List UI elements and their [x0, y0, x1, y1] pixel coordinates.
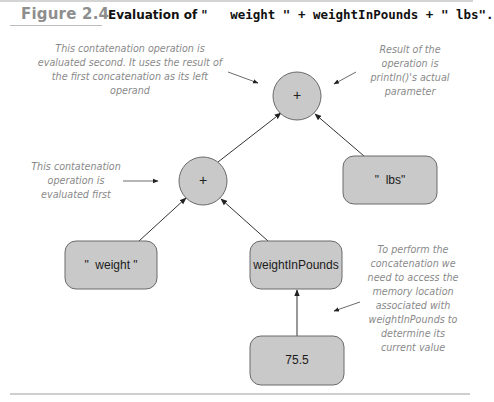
annotation-line: need to access the	[357, 271, 469, 285]
value-label: 75.5	[250, 353, 344, 367]
edge-inner-to-top	[218, 113, 281, 162]
annotation-line: concatenation we	[357, 257, 469, 271]
annotation-second-concat: This contatenation operation is evaluate…	[30, 42, 230, 98]
lbs-literal-label: " lbs"	[343, 173, 437, 187]
annotation-line: current value	[357, 341, 469, 355]
annotation-line: the first concatenation as its left	[30, 70, 230, 84]
annotation-line: determine its	[357, 327, 469, 341]
annotation-line: To perform the	[357, 243, 469, 257]
annotation-line: weightInPounds to	[357, 313, 469, 327]
pointer-second-concat	[228, 72, 258, 83]
bottom-rule	[10, 393, 470, 395]
annotation-line: This contatenation	[28, 160, 124, 174]
annotation-line: Result of the	[360, 43, 460, 57]
pointer-result	[334, 72, 356, 84]
annotation-result: Result of the operation is println()'s a…	[360, 43, 460, 99]
annotation-line: evaluated second. It uses the result of	[30, 56, 230, 70]
annotation-line: This contatenation operation is	[30, 42, 230, 56]
inner-operator-label: +	[193, 172, 213, 188]
annotation-line: parameter	[360, 85, 460, 99]
edge-lbs-to-top	[315, 114, 364, 156]
annotation-line: evaluated first	[28, 188, 124, 202]
annotation-line: operand	[30, 84, 230, 98]
annotation-first-concat: This contatenation operation is evaluate…	[28, 160, 124, 202]
annotation-line: operation is	[360, 57, 460, 71]
annotation-memory: To perform the concatenation we need to …	[357, 243, 469, 355]
weight-literal-label: " weight "	[65, 258, 157, 272]
annotation-line: println()'s actual	[360, 71, 460, 85]
annotation-line: operation is	[28, 174, 124, 188]
edge-weight-to-inner	[139, 198, 186, 241]
edge-var-to-inner	[221, 199, 268, 241]
top-operator-label: +	[287, 87, 307, 103]
weight-variable-label: weightInPounds	[250, 258, 342, 272]
annotation-line: associated with	[357, 299, 469, 313]
annotation-line: memory location	[357, 285, 469, 299]
